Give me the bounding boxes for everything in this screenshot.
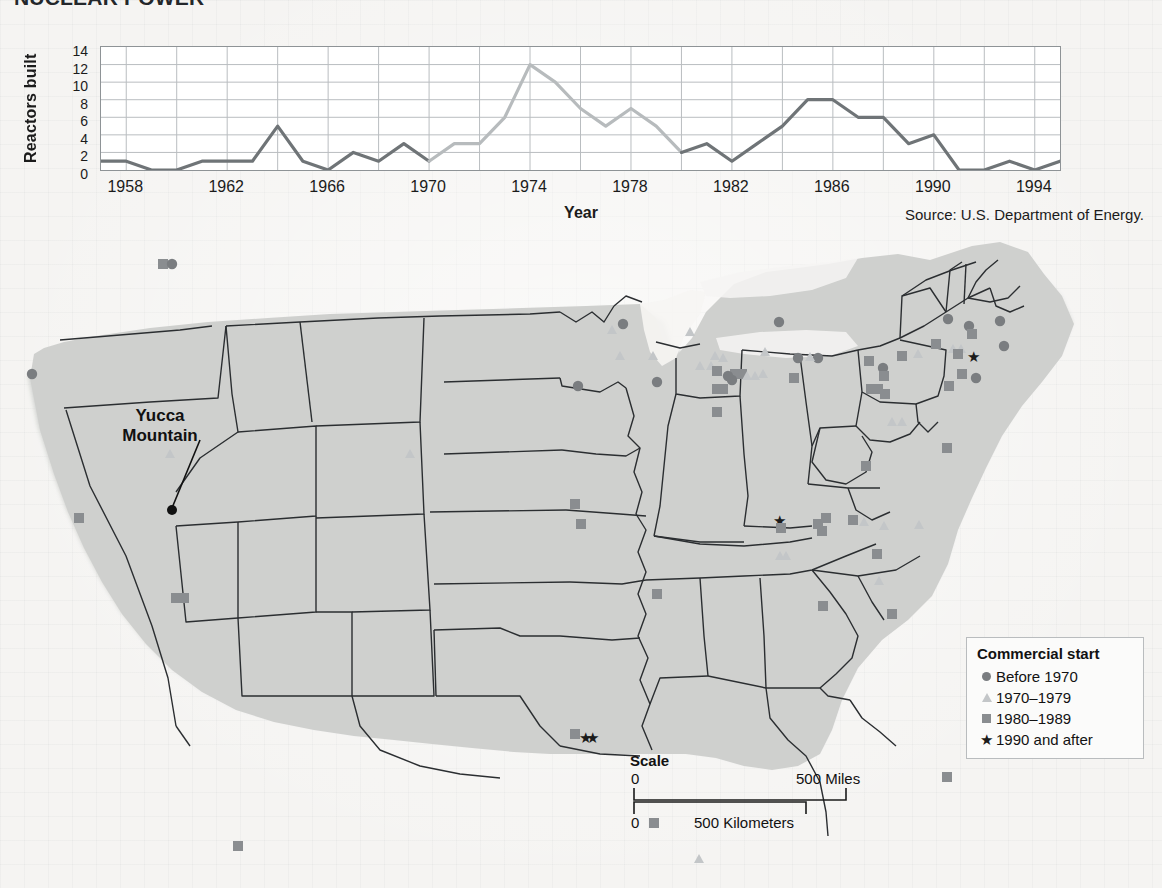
scale-bar-graphic [630,786,880,816]
reactor-marker-1990-and-after: ★ [967,348,980,365]
reactor-marker-1980-1989 [848,515,858,525]
reactor-marker-1980-1989 [712,407,722,417]
chart-y-tick: 12 [54,64,88,74]
map-scale-bar: Scale 0 500 Miles 0 500 Kilometers [630,752,920,844]
legend-item: 1980–1989 [977,708,1134,729]
chart-y-tick: 4 [54,134,88,144]
chart-line-segment [101,126,429,170]
scale-miles-max: 500 Miles [796,770,860,787]
reactor-marker-1980-1989 [953,349,963,359]
yucca-mountain-label: Yucca Mountain [110,406,210,446]
reactor-marker-1980-1989 [652,589,662,599]
us-landmass [30,242,1074,770]
reactor-marker-before-1970 [813,353,823,363]
scale-km-zero: 0 [631,814,639,831]
reactor-marker-1980-1989 [880,389,890,399]
reactor-marker-before-1970 [971,373,981,383]
reactor-marker-before-1970 [995,316,1005,326]
chart-y-axis-label: Reactors built [22,48,42,168]
reactor-marker-1980-1989 [718,384,728,394]
page-title: NUCLEAR POWER [14,0,204,10]
legend-item-label: Before 1970 [996,668,1078,685]
chart-x-tick: 1958 [107,178,143,196]
reactor-marker-1980-1989 [942,772,952,782]
circle-marker-icon [977,672,996,681]
scale-miles-zero: 0 [631,770,639,787]
chart-y-tick: 2 [54,151,88,161]
reactor-marker-before-1970 [27,369,37,379]
yucca-label-line1: Yucca [110,406,210,426]
reactor-marker-before-1970 [652,377,662,387]
reactors-built-chart: Reactors built 14121086420 1958196219661… [0,18,1162,208]
legend-item-label: 1990 and after [996,731,1093,748]
chart-y-tick: 8 [54,99,88,109]
reactor-marker-1980-1989 [776,523,786,533]
chart-x-tick: 1990 [915,178,951,196]
map-legend: Commercial start Before 19701970–1979198… [966,637,1144,759]
reactor-marker-1980-1989 [864,356,874,366]
chart-y-tick: 10 [54,81,88,91]
reactor-marker-1980-1989 [861,461,871,471]
chart-x-tick: 1982 [713,178,749,196]
chart-x-tick: 1994 [1016,178,1052,196]
chart-x-axis-ticks: 1958196219661970197419781982198619901994 [100,178,1061,200]
reactor-marker-1980-1989 [158,259,168,269]
reactor-marker-1980-1989 [879,371,889,381]
reactor-marker-1980-1989 [576,519,586,529]
chart-plot-area [100,46,1061,171]
reactor-marker-1980-1989 [233,841,243,851]
chart-x-tick: 1978 [612,178,648,196]
reactor-marker-before-1970 [723,371,733,381]
reactor-marker-1980-1989 [712,366,722,376]
legend-item: 1970–1979 [977,687,1134,708]
legend-items: Before 19701970–19791980–1989★1990 and a… [977,666,1134,750]
reactor-marker-before-1970 [943,314,953,324]
reactor-marker-1980-1989 [957,369,967,379]
reactor-marker-1980-1989 [967,329,977,339]
legend-item: Before 1970 [977,666,1134,687]
chart-svg [101,47,1060,170]
yucca-label-line2: Mountain [110,426,210,446]
reactor-marker-1980-1989 [872,549,882,559]
chart-x-tick: 1974 [511,178,547,196]
chart-x-tick: 1986 [814,178,850,196]
reactor-marker-before-1970 [167,259,177,269]
chart-x-tick: 1970 [410,178,446,196]
reactor-marker-1980-1989 [942,443,952,453]
reactor-marker-1980-1989 [179,593,189,603]
legend-item-label: 1970–1979 [996,689,1071,706]
reactor-marker-1970-1979 [694,854,704,863]
reactor-marker-before-1970 [573,381,583,391]
legend-title: Commercial start [977,645,1134,662]
reactor-marker-1980-1989 [887,609,897,619]
chart-line-segment [429,65,681,162]
source-note: Source: U.S. Department of Energy. [905,206,1144,223]
reactor-marker-before-1970 [774,317,784,327]
reactor-marker-1980-1989 [897,351,907,361]
scale-km-max: 500 Kilometers [694,814,794,831]
reactor-marker-1990-and-after: ★ [586,729,599,746]
reactor-marker-1980-1989 [931,339,941,349]
star-marker-icon: ★ [977,734,996,745]
us-map: ★★★★ [0,226,1162,866]
reactor-marker-1980-1989 [789,373,799,383]
reactor-marker-1980-1989 [817,526,827,536]
legend-item-label: 1980–1989 [996,710,1071,727]
reactor-marker-1980-1989 [570,729,580,739]
scale-title: Scale [630,752,669,769]
reactor-marker-1980-1989 [944,381,954,391]
chart-y-tick: 6 [54,116,88,126]
reactor-marker-before-1970 [793,353,803,363]
reactor-marker-before-1970 [618,319,628,329]
reactor-marker-1980-1989 [570,499,580,509]
chart-y-axis-ticks: 14121086420 [52,42,88,172]
reactor-marker-1980-1989 [821,513,831,523]
chart-y-tick: 0 [54,169,88,179]
chart-x-tick: 1966 [309,178,345,196]
square-marker-icon [977,714,996,723]
chart-y-tick: 14 [54,46,88,56]
reactor-marker-before-1970 [999,341,1009,351]
chart-x-tick: 1962 [208,178,244,196]
reactor-marker-1980-1989 [818,601,828,611]
legend-item: ★1990 and after [977,729,1134,750]
